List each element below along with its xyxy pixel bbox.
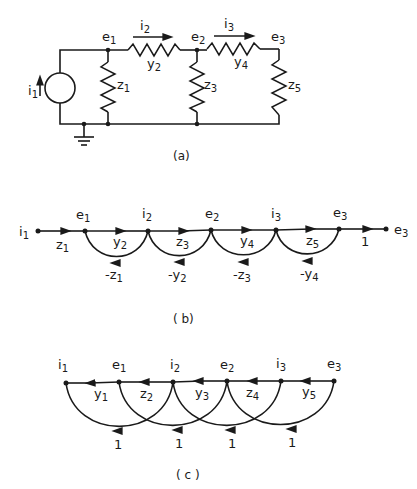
feedback-gain: -z3 [233, 267, 251, 284]
node-label: i1 [19, 224, 29, 241]
node-label: e3 [327, 356, 341, 373]
wire-top-left [60, 50, 128, 73]
node-label: e2 [220, 357, 234, 374]
sfg-node [332, 379, 337, 384]
label-i2: i2 [140, 18, 150, 35]
feedback-gain: -y2 [168, 267, 187, 284]
resistor-z5-icon [272, 60, 286, 115]
label-z1: z1 [117, 77, 130, 94]
resistor-y2-icon [128, 44, 180, 56]
node-e1-dot [106, 48, 111, 53]
node-label: i2 [170, 357, 180, 374]
label-y4: y4 [234, 54, 248, 71]
node-label: i3 [276, 356, 286, 373]
caption-c: ( c ) [176, 468, 200, 482]
branch-gain: y5 [302, 384, 316, 401]
branch-gain: y2 [113, 234, 127, 251]
arc-gain: 1 [114, 437, 122, 452]
current-source-icon [45, 73, 75, 103]
label-z5: z5 [288, 77, 301, 94]
arc-gain: 1 [228, 436, 236, 451]
sfg-node [117, 380, 122, 385]
sfg-node [274, 228, 279, 233]
label-e2: e2 [191, 29, 205, 46]
label-y2: y2 [147, 56, 161, 73]
panel-a-circuit: i1 e1 e2 e3 i2 i3 z1 y2 z3 y4 z5 [28, 16, 301, 163]
sfg-node [83, 229, 88, 234]
node-label: e3 [394, 222, 408, 239]
branch-gain: 1 [361, 234, 369, 249]
wire-bottom [60, 103, 279, 124]
node-label: e3 [333, 205, 347, 222]
branch-gain: z1 [56, 237, 69, 254]
sfg-node [279, 379, 284, 384]
sfg-node [36, 229, 41, 234]
label-e3: e3 [271, 29, 285, 46]
label-e1: e1 [102, 29, 116, 46]
resistor-z3-icon [190, 62, 204, 112]
arc-gain: 1 [288, 435, 296, 450]
node-label: e1 [76, 207, 90, 224]
branch-gain: z4 [246, 385, 259, 402]
figure-canvas: i1 e1 e2 e3 i2 i3 z1 y2 z3 y4 z5 [0, 0, 417, 489]
sfg-node [171, 380, 176, 385]
label-z3: z3 [204, 77, 217, 94]
resistor-z1-icon [101, 62, 115, 112]
node-label: i3 [271, 206, 281, 223]
branch-gain: y1 [94, 386, 108, 403]
caption-a: (a) [173, 149, 190, 163]
sfg-node [146, 229, 151, 234]
panel-b-flowgraph: i1 e1 i2 e2 i3 e3 e3 z1 y2 z3 y4 z5 1 -z… [19, 205, 408, 326]
sfg-node [225, 379, 230, 384]
node-label: i2 [142, 206, 152, 223]
sfg-node [384, 227, 389, 232]
node-label: e2 [205, 206, 219, 223]
ground-icon [74, 124, 94, 145]
branch-gain: y3 [195, 385, 209, 402]
caption-b: ( b) [173, 312, 194, 326]
label-i3: i3 [224, 16, 234, 33]
node-label: i1 [58, 357, 68, 374]
node-label: e1 [112, 357, 126, 374]
branch-gain: z3 [176, 234, 189, 251]
sfg-node [64, 381, 69, 386]
branch-gain: z5 [306, 233, 319, 250]
feedback-gain: -y4 [300, 266, 319, 283]
feedback-gain: -z1 [105, 267, 123, 284]
branch-gain: z2 [140, 386, 153, 403]
arc-gain: 1 [175, 436, 183, 451]
sfg-node [209, 228, 214, 233]
sfg-node [337, 227, 342, 232]
node-e2-dot [195, 48, 200, 53]
panel-c-flowgraph: i1 e1 i2 e2 i3 e3 y1 z2 y3 z4 y5 1 1 1 1… [58, 356, 341, 482]
source-label: i1 [28, 83, 38, 100]
branch-gain: y4 [240, 233, 254, 250]
